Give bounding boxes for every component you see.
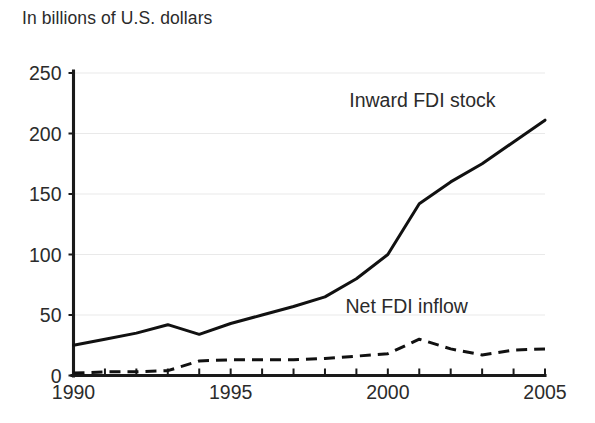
y-tick-label: 200 <box>29 123 62 145</box>
line-chart-canvas: 050100150200250 1990199520002005 Inward … <box>0 0 595 423</box>
series-label-2: Net FDI inflow <box>345 295 468 317</box>
x-tick-label: 1995 <box>209 381 253 403</box>
chart-figure: In billions of U.S. dollars 050100150200… <box>0 0 595 423</box>
y-tick-label: 50 <box>40 304 62 326</box>
y-tick-label: 150 <box>29 183 62 205</box>
series-label-1: Inward FDI stock <box>349 89 496 111</box>
x-tick-label: 1990 <box>52 381 96 403</box>
y-axis-labels-group: 050100150200250 <box>29 62 62 387</box>
x-axis-labels-group: 1990199520002005 <box>52 381 567 403</box>
x-tick-label: 2005 <box>523 381 567 403</box>
data-series-group <box>74 120 546 373</box>
y-tick-label: 100 <box>29 244 62 266</box>
series-line-2 <box>74 339 546 373</box>
gridlines-group <box>69 73 546 376</box>
series-line-1 <box>74 120 546 345</box>
y-tick-label: 250 <box>29 62 62 84</box>
x-tick-label: 2000 <box>366 381 410 403</box>
